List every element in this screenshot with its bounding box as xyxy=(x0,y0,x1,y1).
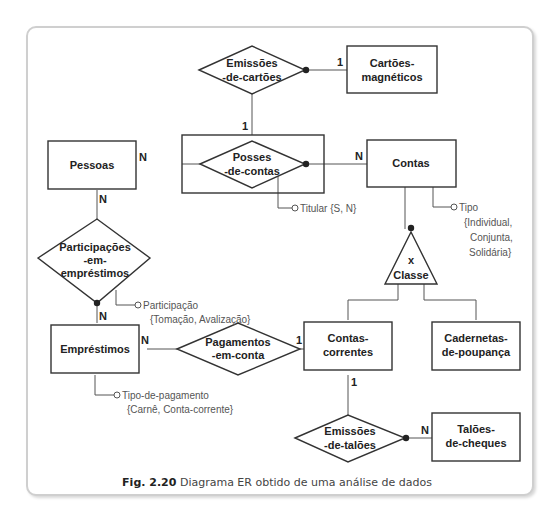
svg-text:Participações: Participações xyxy=(59,241,131,253)
svg-text:Tipo: Tipo xyxy=(459,202,479,213)
entity-contas: Contas xyxy=(367,140,456,187)
entity-emprestimos: Empréstimos xyxy=(51,325,139,373)
svg-text:empréstimos: empréstimos xyxy=(61,267,129,279)
attribute-titular: Titular {S, N} xyxy=(300,203,357,214)
svg-text:Contas-: Contas- xyxy=(328,332,369,344)
svg-text:Cadernetas-: Cadernetas- xyxy=(444,332,508,344)
relationship-participacoes-em-emprestimos: Participações -em- empréstimos xyxy=(38,219,150,303)
entity-cartoes-magneticos: Cartões- magnéticos xyxy=(347,46,437,93)
svg-text:Posses: Posses xyxy=(233,151,272,163)
relationship-pagamentos-em-conta: Pagamentos -em-conta xyxy=(177,323,300,375)
svg-text:{Tomação, Avalização}: {Tomação, Avalização} xyxy=(150,314,251,325)
caption-fig-number: Fig. 2.20 xyxy=(122,476,176,489)
attr-circle-participacao xyxy=(135,302,141,308)
cardinality: 1 xyxy=(351,376,357,388)
figure-caption: Fig. 2.20 Diagrama ER obtido de uma anál… xyxy=(0,476,554,489)
entity-taloes-de-cheques: Talões- de-cheques xyxy=(432,413,520,461)
dot-icon xyxy=(94,300,100,306)
caption-text: Diagrama ER obtido de uma análise de dad… xyxy=(180,476,432,489)
attribute-participacao: Participação {Tomação, Avalização} xyxy=(143,300,251,325)
cardinality: N xyxy=(141,334,149,346)
svg-text:{Individual,: {Individual, xyxy=(464,217,512,228)
attr-circle-titular xyxy=(292,205,298,211)
svg-text:Pagamentos: Pagamentos xyxy=(205,336,270,348)
svg-text:correntes: correntes xyxy=(323,346,373,358)
relationship-posses-de-contas: Posses -de-contas xyxy=(200,141,305,188)
svg-text:-em-: -em- xyxy=(83,254,107,266)
svg-text:-de-contas: -de-contas xyxy=(224,165,280,177)
cardinality: 1 xyxy=(337,56,343,68)
generalization-classe: x Classe xyxy=(385,232,437,284)
svg-text:Cartões-: Cartões- xyxy=(370,57,415,69)
cardinality: N xyxy=(421,424,429,436)
svg-text:Participação: Participação xyxy=(143,300,198,311)
entity-contas-correntes: Contas- correntes xyxy=(304,322,392,370)
svg-text:x: x xyxy=(408,254,415,266)
svg-text:Solidária}: Solidária} xyxy=(469,247,512,258)
svg-text:-em-conta: -em-conta xyxy=(212,349,265,361)
dot-icon xyxy=(408,225,414,231)
cardinality: 1 xyxy=(242,120,248,132)
svg-text:Emissões: Emissões xyxy=(226,57,277,69)
svg-text:Pessoas: Pessoas xyxy=(70,159,115,171)
svg-text:Emissões: Emissões xyxy=(324,425,375,437)
entity-cadernetas-de-poupanca: Cadernetas- de-poupança xyxy=(432,322,520,370)
svg-text:-de-cartões: -de-cartões xyxy=(222,71,281,83)
relationship-emissoes-de-cartoes: Emissões -de-cartões xyxy=(199,46,305,94)
dot-icon xyxy=(303,161,309,167)
svg-text:de-cheques: de-cheques xyxy=(445,437,506,449)
attribute-tipo: Tipo {Individual, Conjunta, Solidária} xyxy=(459,202,513,258)
attr-circle-tipo-pagamento xyxy=(114,392,120,398)
svg-text:Titular {S, N}: Titular {S, N} xyxy=(300,203,357,214)
svg-text:Contas: Contas xyxy=(392,157,429,169)
cardinality: N xyxy=(99,193,107,205)
entity-pessoas: Pessoas xyxy=(48,141,136,189)
svg-text:magnéticos: magnéticos xyxy=(361,71,422,83)
svg-text:Tipo-de-pagamento: Tipo-de-pagamento xyxy=(122,390,209,401)
attr-circle-tipo xyxy=(451,204,457,210)
cardinality: N xyxy=(355,150,363,162)
attribute-tipo-de-pagamento: Tipo-de-pagamento {Carnê, Conta-corrente… xyxy=(122,390,234,415)
svg-text:de-poupança: de-poupança xyxy=(442,346,511,358)
er-diagram: Cartões- magnéticos Pessoas Contas Empré… xyxy=(0,0,554,523)
svg-text:Conjunta,: Conjunta, xyxy=(470,232,513,243)
svg-text:Classe: Classe xyxy=(393,269,428,281)
svg-text:{Carnê, Conta-corrente}: {Carnê, Conta-corrente} xyxy=(127,404,234,415)
svg-text:Empréstimos: Empréstimos xyxy=(60,343,130,355)
svg-text:Talões-: Talões- xyxy=(457,423,495,435)
dot-icon xyxy=(403,435,409,441)
svg-text:-de-talões: -de-talões xyxy=(324,439,376,451)
dot-icon xyxy=(303,67,309,73)
relationship-emissoes-de-taloes: Emissões -de-talões xyxy=(295,415,405,462)
cardinality: N xyxy=(139,151,147,163)
cardinality: 1 xyxy=(296,334,302,346)
cardinality: N xyxy=(99,310,107,322)
